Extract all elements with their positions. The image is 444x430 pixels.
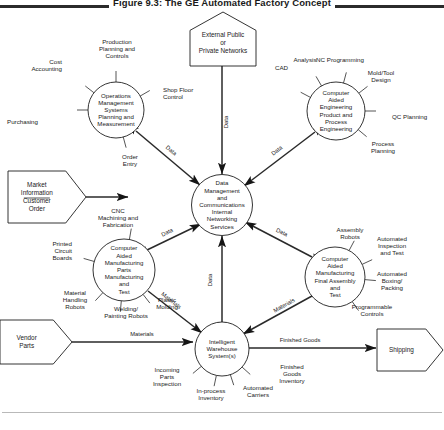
node-engineering: ComputerAidedEngineeringProduct andProce… (307, 82, 365, 140)
spoke-line-printed-circuit-boards (84, 258, 95, 261)
spoke-line-automated-carriers (230, 375, 233, 385)
spoke-label-material-handling-robots: MaterialHandlingRobots (63, 289, 88, 310)
flow-label-flow-camfinal-hub: Data (275, 227, 289, 238)
figure-container: Figure 9.3: The GE Automated Factory Con… (0, 0, 444, 430)
footer-rule (2, 412, 442, 413)
spoke-label-shop-floor-control: Shop FloorControl (163, 86, 193, 100)
entity-vendor-parts: VendorParts (0, 320, 72, 364)
flow-flow-operations-hub (136, 131, 200, 185)
flow-label-flow-engineering-hub: Data (270, 144, 284, 157)
spoke-line-assembly-robots (349, 241, 354, 251)
spoke-line-mold-tool-design (359, 86, 368, 93)
entity-label-shipping: Shipping (389, 346, 414, 354)
node-operations: OperationsManagementSystemsPlanning andM… (88, 82, 144, 138)
factory-concept-diagram: External PublicorPrivate NetworksMarketI… (0, 0, 444, 430)
spoke-label-production-planning-and-controls: ProductionPlanning andControls (99, 38, 136, 59)
spoke-line-plastic-molding (143, 294, 150, 303)
spoke-line-shop-floor-control (140, 91, 150, 97)
spoke-line-order-entry (123, 137, 126, 148)
node-label-warehouse: IntelligentWarehouseSystem(s) (207, 338, 239, 359)
node-hub: DataManagementandCommunicationsInternalN… (192, 175, 253, 236)
spoke-line-in-process-inventory (214, 375, 216, 386)
node-label-engineering: ComputerAidedEngineeringProduct andProce… (320, 89, 353, 132)
spoke-line-analysis (316, 76, 322, 86)
flow-label-flow-networks-hub: Data (223, 115, 229, 128)
spoke-label-in-process-inventory: In-processInventory (197, 387, 226, 401)
spoke-label-printed-circuit-boards: PrintedCircuitBoards (52, 240, 72, 261)
flow-label-flow-camparts-hub: Data (160, 226, 174, 237)
spoke-label-automated-carriers: AutomatedCarriers (243, 384, 273, 398)
spoke-label-nc-programming: NC Programming (316, 56, 364, 63)
spoke-line-process-planning (358, 130, 366, 137)
spoke-line-cad (301, 92, 311, 97)
entity-market-information: MarketInformationCustomerOrder (8, 171, 86, 223)
node-cam-parts: ComputerAidedManufacturingPartsManufactu… (93, 239, 155, 301)
entity-shipping: Shipping (377, 329, 443, 371)
spoke-line-incoming-parts-inspection (193, 366, 201, 373)
flow-flow-camfinal-warehouse (243, 296, 312, 334)
spoke-label-incoming-parts-inspection: IncomingPartsInspection (153, 366, 182, 387)
spoke-label-automated-boxing-packing: AutomatedBoxing/Packing (377, 270, 407, 291)
spoke-line-material-handling-robots (95, 293, 103, 301)
spoke-label-finished-goods-inventory: FinishedGoodsInventory (279, 363, 305, 384)
spoke-line-cnc-machining-and-fabrication (129, 229, 131, 240)
spoke-label-automated-inspection-and-test: AutomatedInspectionand Test (377, 235, 407, 256)
spoke-label-process-planning: ProcessPlanning (371, 140, 396, 154)
spoke-label-cad: CAD (275, 64, 289, 71)
flow-label-flow-warehouse-hub: Data (207, 273, 213, 286)
spoke-label-assembly-robots: AssemblyRobots (337, 226, 365, 240)
flow-label-flow-operations-hub: Data (165, 144, 179, 157)
flow-flow-camparts-hub (147, 224, 201, 250)
spoke-line-nc-programming (344, 72, 347, 83)
spoke-label-order-entry: OrderEntry (122, 153, 138, 167)
entity-shape-arrow-right (0, 320, 72, 364)
spoke-label-analysis: Analysis (293, 56, 316, 63)
flow-label-flow-warehouse-shipping: Finished Goods (280, 337, 321, 343)
spoke-line-finished-goods-inventory (242, 367, 250, 374)
spoke-label-cost-accounting: CostAccounting (31, 58, 62, 72)
spoke-label-qc-planning: QC Planning (392, 113, 428, 120)
spoke-line-automated-boxing-packing (365, 280, 376, 281)
spoke-line-cost-accounting (85, 86, 94, 93)
flow-label-flow-vendor-warehouse: Materials (130, 331, 154, 337)
node-warehouse: IntelligentWarehouseSystem(s) (195, 322, 249, 376)
spoke-line-automated-inspection-and-test (362, 260, 372, 265)
spoke-label-cnc-machining-and-fabrication: CNCMachining andFabrication (98, 207, 139, 228)
spoke-label-welding-painting-robots: Welding/Painting Robots (104, 305, 148, 319)
flow-flow-engineering-hub (244, 132, 315, 186)
node-cam-final-assembly: ComputerAidedManufacturingFinal Assembly… (305, 247, 365, 307)
spoke-label-purchasing: Purchasing (7, 118, 39, 125)
entity-external-networks: External PublicorPrivate Networks (190, 12, 256, 66)
spoke-label-mold-tool-design: Mold/ToolDesign (368, 69, 394, 83)
